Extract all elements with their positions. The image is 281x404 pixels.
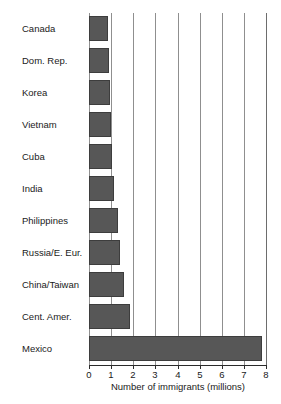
bar-mexico — [89, 336, 262, 361]
bar-row — [89, 109, 266, 141]
bar-cuba — [89, 144, 112, 169]
bar-row — [89, 45, 266, 77]
category-label-philippines: Philippines — [22, 215, 88, 226]
x-axis-title: Number of immigrants (millions) — [89, 381, 267, 392]
bar-canada — [89, 16, 108, 41]
bar-korea — [89, 80, 110, 105]
category-label-canada: Canada — [22, 23, 88, 34]
bar-row — [89, 77, 266, 109]
category-label-cuba: Cuba — [22, 151, 88, 162]
x-tick-label-4: 4 — [168, 369, 188, 380]
bar-row — [89, 269, 266, 301]
bar-philippines — [89, 208, 118, 233]
bar-row — [89, 333, 266, 365]
x-tick-label-5: 5 — [190, 369, 210, 380]
category-label-china-taiwan: China/Taiwan — [22, 279, 88, 290]
bar-row — [89, 173, 266, 205]
bar-cent-amer — [89, 304, 130, 329]
x-tick-label-2: 2 — [123, 369, 143, 380]
x-tick-label-8: 8 — [256, 369, 276, 380]
bar-china-taiwan — [89, 272, 124, 297]
bar-row — [89, 141, 266, 173]
category-label-korea: Korea — [22, 87, 88, 98]
bar-vietnam — [89, 112, 111, 137]
immigrant-origin-bar-chart: 012345678CanadaDom. Rep.KoreaVietnamCuba… — [0, 0, 281, 404]
category-label-cent-amer: Cent. Amer. — [22, 311, 88, 322]
bar-row — [89, 301, 266, 333]
bar-dom-rep — [89, 48, 109, 73]
gridline-8 — [266, 13, 267, 365]
x-tick-label-0: 0 — [79, 369, 99, 380]
bar-india — [89, 176, 114, 201]
category-label-india: India — [22, 183, 88, 194]
category-label-russia-e-eur: Russia/E. Eur. — [22, 247, 88, 258]
x-tick-label-3: 3 — [145, 369, 165, 380]
x-tick-label-7: 7 — [234, 369, 254, 380]
bar-row — [89, 205, 266, 237]
x-tick-label-1: 1 — [101, 369, 121, 380]
category-label-dom-rep: Dom. Rep. — [22, 55, 88, 66]
category-label-mexico: Mexico — [22, 343, 88, 354]
category-label-vietnam: Vietnam — [22, 119, 88, 130]
x-tick-label-6: 6 — [212, 369, 232, 380]
bar-row — [89, 13, 266, 45]
bar-russia-e-eur — [89, 240, 120, 265]
bar-row — [89, 237, 266, 269]
